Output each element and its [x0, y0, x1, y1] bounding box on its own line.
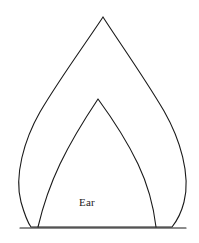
ear-pattern-drawing: Ear	[0, 0, 199, 243]
part-name-label: Ear	[79, 196, 95, 208]
